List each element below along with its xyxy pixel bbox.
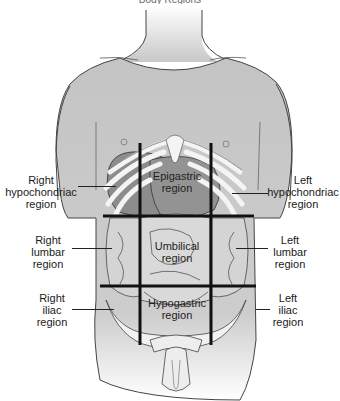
label-epigastric: Epigastric region	[146, 170, 208, 194]
label-left-hypochondriac: Left hypochondriac region	[266, 174, 340, 210]
leader-right-iliac	[72, 309, 114, 310]
label-left-lumbar: Left lumbar region	[268, 234, 312, 270]
leader-left-iliac	[256, 309, 270, 310]
label-right-lumbar: Right lumbar region	[24, 234, 72, 270]
label-hypogastric: Hypogastric region	[144, 297, 210, 321]
leader-right-hypochondriac	[78, 186, 116, 187]
genitalia	[162, 347, 190, 391]
label-left-iliac: Left iliac region	[266, 292, 310, 328]
label-right-iliac: Right iliac region	[30, 292, 74, 328]
leader-left-lumbar	[236, 248, 268, 249]
neck	[120, 6, 218, 62]
leader-left-hypochondriac	[232, 193, 268, 194]
label-right-hypochondriac: Right hypochondriac region	[2, 174, 80, 210]
leader-right-lumbar	[72, 248, 112, 249]
label-umbilical: Umbilical region	[146, 240, 208, 264]
